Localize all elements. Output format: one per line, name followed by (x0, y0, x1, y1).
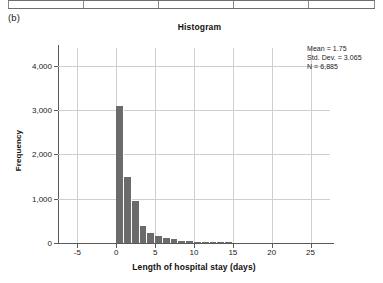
gridline-vertical (272, 48, 273, 243)
y-axis-tick-label: 0 (6, 239, 52, 248)
histogram-bar (155, 236, 163, 243)
y-axis-tick-mark (54, 110, 58, 111)
x-axis-tick-label: 5 (140, 248, 170, 257)
chart-title-text: Histogram (178, 22, 221, 32)
y-axis-tick-labels: 01,0002,0003,0004,000 (0, 0, 52, 283)
statistics-annotation: Mean = 1.75 Std. Dev. = 3.065 N = 6,885 (307, 44, 362, 71)
histogram-bar (124, 177, 132, 243)
histogram-bar (132, 201, 140, 243)
histogram-bar (225, 242, 233, 243)
x-axis-tick-label: 25 (296, 248, 326, 257)
x-axis-tick-label: 10 (179, 248, 209, 257)
table-column-divider (308, 1, 309, 8)
chart-title: Histogram (0, 22, 383, 32)
plot-area (58, 48, 330, 243)
histogram-bar (210, 242, 218, 243)
x-axis-tick-label: 15 (218, 248, 248, 257)
histogram-bar (217, 242, 225, 243)
histogram-bar (163, 238, 171, 243)
histogram-bar (171, 239, 179, 243)
x-axis-title: Length of hospital stay (days) (58, 262, 330, 272)
table-fragment (8, 0, 375, 9)
y-axis-tick-mark (54, 154, 58, 155)
table-column-divider (158, 1, 159, 8)
x-axis-line (58, 243, 334, 244)
y-axis-tick-mark (54, 199, 58, 200)
stat-mean: Mean = 1.75 (307, 44, 362, 53)
histogram-bar (194, 242, 202, 243)
gridline-vertical (77, 48, 78, 243)
histogram-bar (178, 241, 186, 243)
x-axis-tick-label: 20 (257, 248, 287, 257)
histogram-figure: (b) Histogram 01,0002,0003,0004,000 Freq… (0, 0, 383, 283)
x-axis-tick-mark (233, 244, 234, 248)
y-axis-tick-label: 4,000 (6, 61, 52, 70)
y-axis-title: Frequency (14, 106, 23, 196)
table-column-divider (83, 1, 84, 8)
stat-n: N = 6,885 (307, 62, 362, 71)
y-axis-tick-mark (54, 66, 58, 67)
histogram-bar (186, 241, 194, 243)
x-axis-tick-mark (116, 244, 117, 248)
x-axis-tick-label: 0 (101, 248, 131, 257)
x-axis-tick-mark (272, 244, 273, 248)
table-column-divider (233, 1, 234, 8)
x-axis-tick-mark (155, 244, 156, 248)
gridline-vertical (194, 48, 195, 243)
histogram-bar (140, 226, 148, 243)
x-axis-tick-label: -5 (62, 248, 92, 257)
stat-std-dev: Std. Dev. = 3.065 (307, 53, 362, 62)
histogram-bar (202, 242, 210, 243)
x-axis-tick-mark (77, 244, 78, 248)
x-axis-tick-mark (194, 244, 195, 248)
y-axis-tick-mark (54, 243, 58, 244)
histogram-bar (116, 106, 124, 243)
y-axis-tick-label: 1,000 (6, 194, 52, 203)
gridline-vertical (233, 48, 234, 243)
table-column-divider (374, 1, 375, 8)
histogram-bar (147, 233, 155, 243)
gridline-vertical (311, 48, 312, 243)
gridline-vertical (155, 48, 156, 243)
x-axis-tick-mark (311, 244, 312, 248)
